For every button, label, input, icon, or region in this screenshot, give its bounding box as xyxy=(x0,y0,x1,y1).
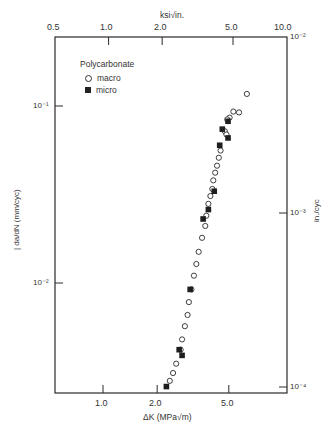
macro-point xyxy=(199,235,204,240)
macro-point xyxy=(213,170,218,175)
macro-point xyxy=(186,299,191,304)
top-tick-label: 10.0 xyxy=(274,22,292,32)
micro-point xyxy=(225,135,231,141)
right-axis-title: in./cyc xyxy=(312,199,321,222)
micro-point xyxy=(200,216,206,222)
bottom-tick-label: 1.0 xyxy=(95,398,108,408)
macro-point xyxy=(203,223,208,228)
open-circle-icon xyxy=(85,75,92,82)
macro-point xyxy=(196,249,201,254)
top-tick-label: 1.0 xyxy=(100,22,113,32)
micro-point xyxy=(187,287,193,293)
bottom-tick-label: 2.0 xyxy=(149,398,162,408)
chart-canvas xyxy=(0,0,334,430)
top-tick-label: 0.5 xyxy=(47,22,60,32)
macro-point xyxy=(191,273,196,278)
data-points xyxy=(164,91,250,389)
legend-label: micro xyxy=(96,85,117,95)
top-tick-label: 5.0 xyxy=(225,22,238,32)
right-tick-label: 10⁻⁴ xyxy=(290,382,306,391)
micro-point xyxy=(219,126,225,132)
right-tick-label: 10⁻² xyxy=(290,32,306,41)
macro-point xyxy=(167,378,172,383)
micro-point xyxy=(211,188,217,194)
filled-square-icon xyxy=(85,87,91,93)
macro-point xyxy=(216,155,221,160)
macro-point xyxy=(185,312,190,317)
micro-point xyxy=(176,347,182,353)
macro-point xyxy=(231,109,236,114)
bottom-tick-label: 5.0 xyxy=(221,398,234,408)
macro-point xyxy=(208,193,213,198)
legend-label: macro xyxy=(97,73,121,83)
micro-point xyxy=(217,142,223,148)
micro-point xyxy=(164,384,170,390)
bottom-axis-title: ΔK (MPa√m) xyxy=(143,412,192,422)
micro-point xyxy=(179,353,185,359)
legend-title: Polycarbonate xyxy=(80,59,134,69)
legend: Polycarbonate macro micro xyxy=(80,59,134,96)
micro-point xyxy=(225,118,231,124)
macro-point xyxy=(182,324,187,329)
legend-item-micro: micro xyxy=(85,84,134,96)
left-tick-label: 10⁻¹ xyxy=(33,101,49,110)
top-axis-title: ksi√in. xyxy=(160,10,184,20)
micro-point xyxy=(206,207,212,213)
macro-point xyxy=(218,148,223,153)
top-tick-label: 2.0 xyxy=(154,22,167,32)
left-tick-label: 10⁻² xyxy=(33,278,49,287)
left-axis-title: | da/dN (mm/cyc) xyxy=(12,189,21,250)
macro-point xyxy=(179,337,184,342)
right-tick-label: 10⁻³ xyxy=(290,208,306,217)
macro-point xyxy=(214,163,219,168)
macro-point xyxy=(236,110,241,115)
macro-point xyxy=(174,361,179,366)
macro-point xyxy=(170,370,175,375)
macro-point xyxy=(211,178,216,183)
legend-item-macro: macro xyxy=(85,72,134,84)
macro-point xyxy=(206,201,211,206)
macro-point xyxy=(244,91,249,96)
macro-point xyxy=(194,261,199,266)
